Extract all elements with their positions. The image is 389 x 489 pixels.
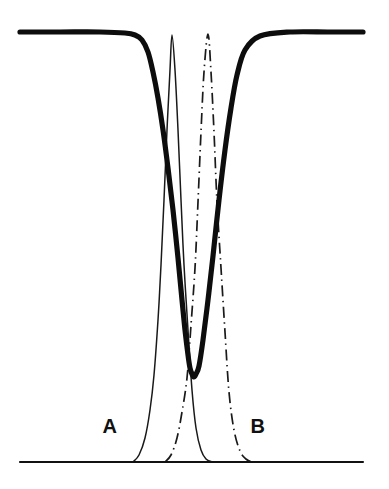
spectral-line-plot: A B — [0, 0, 389, 489]
figure-container: A B — [0, 0, 389, 489]
curve-label-a: A — [103, 415, 118, 437]
curve-label-b: B — [251, 415, 266, 437]
